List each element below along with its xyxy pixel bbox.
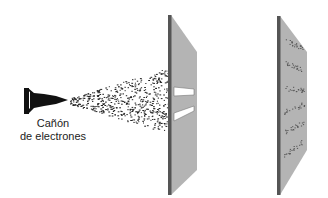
gun-label-line2: de electrones — [8, 130, 98, 143]
gun-label: Cañón de electrones — [8, 117, 98, 143]
slit-barrier-plate — [168, 15, 197, 195]
detection-screen-plate — [277, 16, 307, 195]
double-slit-diagram — [0, 0, 328, 198]
gun-label-line1: Cañón — [8, 117, 98, 130]
electron-gun-icon — [24, 88, 68, 114]
